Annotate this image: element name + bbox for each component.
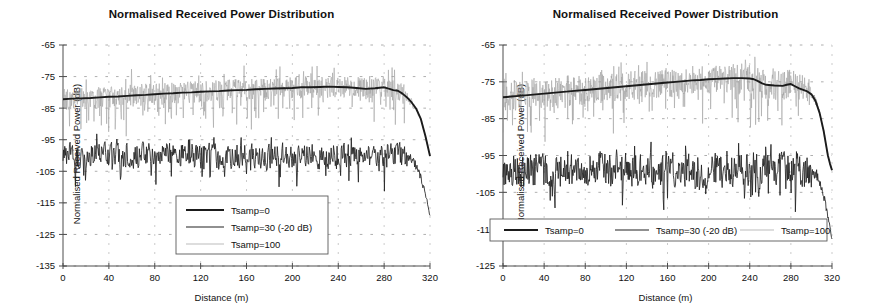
plot-area-right: -125-115-105-95-85-75-650408012016020024… <box>444 0 887 307</box>
y-tick-label: -105 <box>476 187 495 198</box>
x-tick-label: 120 <box>618 272 634 283</box>
legend-label: Tsamp=100 <box>231 239 280 250</box>
x-tick-label: 0 <box>500 272 505 283</box>
x-tick-label: 120 <box>193 272 209 283</box>
x-tick-label: 320 <box>422 272 438 283</box>
x-tick-label: 240 <box>742 272 758 283</box>
plot-svg-right: -125-115-105-95-85-75-650408012016020024… <box>444 0 887 307</box>
y-tick-label: -75 <box>41 71 55 82</box>
y-tick-label: -125 <box>36 229 55 240</box>
y-tick-label: -85 <box>481 113 495 124</box>
chart-panel-right: Normalised Received Power Distribution N… <box>444 0 887 307</box>
x-tick-label: 280 <box>376 272 392 283</box>
figure-two-panel-chart: Normalised Received Power Distribution N… <box>0 0 887 307</box>
y-tick-label: -115 <box>37 197 55 208</box>
y-tick-label: -95 <box>481 150 495 161</box>
legend-label: Tsamp=0 <box>545 225 584 236</box>
legend: Tsamp=0Tsamp=30 (-20 dB)Tsamp=100 <box>176 196 328 254</box>
plot-svg-left: -135-125-115-105-95-85-75-65040801201602… <box>0 0 443 307</box>
legend-label: Tsamp=30 (-20 dB) <box>656 225 737 236</box>
x-tick-label: 40 <box>104 272 115 283</box>
x-tick-label: 80 <box>580 272 591 283</box>
y-tick-label: -125 <box>476 260 495 271</box>
x-tick-label: 160 <box>239 272 255 283</box>
y-tick-label: -95 <box>41 134 55 145</box>
plot-area-left: -135-125-115-105-95-85-75-65040801201602… <box>0 0 443 307</box>
x-tick-label: 80 <box>149 272 160 283</box>
x-tick-label: 200 <box>701 272 717 283</box>
series-line-tsamp100 <box>63 66 430 156</box>
x-tick-label: 160 <box>660 272 676 283</box>
y-tick-label: -85 <box>41 103 55 114</box>
legend-label: Tsamp=0 <box>231 205 270 216</box>
x-tick-label: 280 <box>783 272 799 283</box>
x-tick-label: 40 <box>539 272 550 283</box>
legend-label: Tsamp=100 <box>781 225 830 236</box>
y-tick-label: -105 <box>36 166 55 177</box>
y-tick-label: -135 <box>36 260 55 271</box>
x-tick-label: 320 <box>824 272 840 283</box>
legend-label: Tsamp=30 (-20 dB) <box>231 222 312 233</box>
y-tick-label: -75 <box>481 76 495 87</box>
legend: Tsamp=0Tsamp=30 (-20 dB)Tsamp=100 <box>490 219 830 241</box>
chart-panel-left: Normalised Received Power Distribution N… <box>0 0 443 307</box>
y-tick-label: -65 <box>41 39 55 50</box>
x-tick-label: 240 <box>330 272 346 283</box>
y-tick-label: -65 <box>481 39 495 50</box>
x-tick-label: 200 <box>284 272 300 283</box>
x-tick-label: 0 <box>60 272 65 283</box>
